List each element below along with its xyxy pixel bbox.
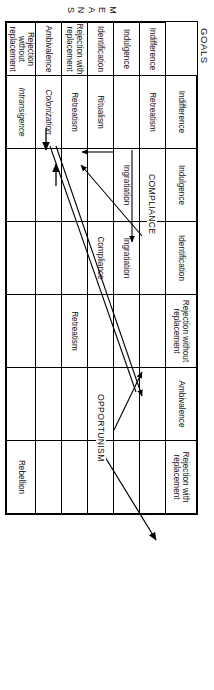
compliance-annotation-label: COMPLIANCE	[147, 173, 157, 235]
cell-r0c5	[140, 441, 166, 514]
cell-r5c3	[7, 295, 36, 368]
matrix-corner-cell	[166, 23, 197, 76]
row-header-indulgence: Indulgence	[114, 23, 140, 76]
column-header-rejection-with-replacement: Rejection with replacement	[166, 441, 197, 514]
cell-r3c4	[62, 368, 88, 441]
column-header-identification: Identification	[166, 222, 197, 295]
cell-r4c0: Colonization	[36, 76, 62, 149]
table-row: Indulgence Ingratiation Ingratiation	[114, 23, 140, 514]
cell-r1c2: Ingratiation	[114, 222, 140, 295]
cell-r2c2: Compliance	[88, 222, 114, 295]
column-header-rejection-without-replacement: Rejection without replacement	[166, 295, 197, 368]
cell-r4c2	[36, 222, 62, 295]
cell-r3c5	[62, 441, 88, 514]
cell-r0c0: Retreatism	[140, 76, 166, 149]
figure-canvas: GOALS M E A N S Indifference Indulgence …	[0, 0, 214, 690]
row-header-ambivalence: Ambivalence	[36, 23, 62, 76]
cell-r1c0	[114, 76, 140, 149]
table-row: Rejection without replacement Intransige…	[7, 23, 36, 514]
means-letter-e: E	[97, 3, 108, 17]
opportunism-annotation-label: OPPORTUNISM	[96, 393, 106, 463]
cell-r3c1	[62, 149, 88, 222]
means-letter-n: N	[76, 3, 87, 17]
means-goals-matrix-figure: GOALS M E A N S Indifference Indulgence …	[0, 0, 214, 690]
cell-r4c1	[36, 149, 62, 222]
row-header-identification: Identification	[88, 23, 114, 76]
cell-r3c2	[62, 222, 88, 295]
cell-r3c0: Retreatism	[62, 76, 88, 149]
column-header-ambivalence: Ambivalence	[166, 368, 197, 441]
column-header-indulgence: Indulgence	[166, 149, 197, 222]
cell-r0c4	[140, 368, 166, 441]
column-header-indifference: Indifference	[166, 76, 197, 149]
cell-r1c4	[114, 368, 140, 441]
cell-r4c3	[36, 295, 62, 368]
cell-r1c3	[114, 295, 140, 368]
cell-r2c0: Ritualism	[88, 76, 114, 149]
cell-r5c2	[7, 222, 36, 295]
table-row: Rejection with replacement Retreatism Re…	[62, 23, 88, 514]
cell-r4c4	[36, 368, 62, 441]
cell-r5c5: Rebellion	[7, 441, 36, 514]
row-header-indifference: Indifference	[140, 23, 166, 76]
row-header-rejection-with-replacement: Rejection with replacement	[62, 23, 88, 76]
means-letter-m: M	[108, 3, 119, 17]
cell-r5c1	[7, 149, 36, 222]
cell-r1c1: Ingratiation	[114, 149, 140, 222]
table-row: Indifference Retreatism	[140, 23, 166, 514]
table-header-row: Indifference Indulgence Identification R…	[166, 23, 197, 514]
cell-r5c0: Intransigence	[7, 76, 36, 149]
goals-axis-label: GOALS	[199, 28, 210, 64]
cell-r3c3: Retreatism	[62, 295, 88, 368]
matrix-body: Indifference Retreatism Indulgence Ingra…	[7, 23, 166, 514]
means-letter-a: A	[87, 3, 98, 17]
row-header-rejection-without-replacement: Rejection without replacement	[7, 23, 36, 76]
means-axis-label: M E A N S	[66, 3, 119, 17]
cell-r0c3	[140, 295, 166, 368]
cell-r4c5	[36, 441, 62, 514]
means-letter-s: S	[66, 3, 77, 17]
cell-r5c4	[7, 368, 36, 441]
cell-r2c1	[88, 149, 114, 222]
table-row: Ambivalence Colonization	[36, 23, 62, 514]
cell-r1c5	[114, 441, 140, 514]
cell-r2c3	[88, 295, 114, 368]
